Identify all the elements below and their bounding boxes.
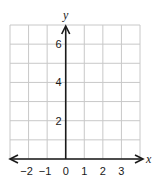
coordinate-plane: −2−10123 246 x y	[0, 0, 159, 195]
x-tick-label: 0	[63, 165, 69, 177]
x-tick-label: 2	[100, 165, 106, 177]
x-tick-label: 3	[118, 165, 124, 177]
x-tick-label: −2	[20, 165, 33, 177]
axes	[10, 26, 143, 163]
y-axis-label: y	[62, 8, 69, 22]
x-tick-label: −1	[39, 165, 52, 177]
y-tick-label: 2	[56, 115, 62, 127]
grid-lines	[10, 25, 140, 159]
x-axis-label: x	[145, 152, 152, 166]
y-tick-labels: 246	[56, 38, 62, 127]
y-tick-label: 6	[56, 38, 62, 50]
x-tick-label: 1	[81, 165, 87, 177]
x-tick-labels: −2−10123	[20, 165, 124, 177]
y-tick-label: 4	[56, 76, 62, 88]
